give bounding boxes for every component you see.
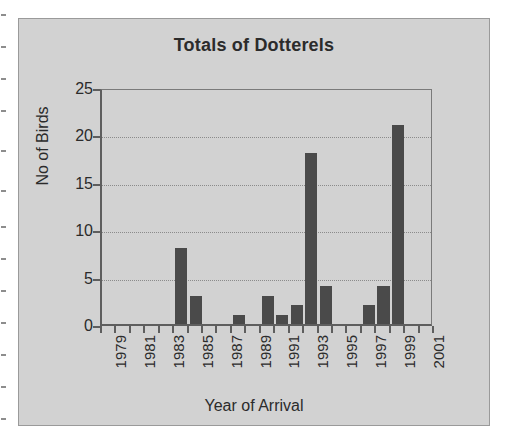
x-tick-mark [389, 326, 391, 333]
x-tick-mark [288, 326, 290, 333]
chart-title: Totals of Dotterels [19, 35, 489, 56]
x-tick-mark [403, 326, 405, 333]
x-tick-mark [418, 326, 420, 333]
x-tick-label: 1995 [343, 335, 360, 391]
x-tick-mark [172, 326, 174, 333]
x-tick-mark [345, 326, 347, 333]
x-axis-ticks [100, 326, 432, 334]
gridline-5 [102, 280, 431, 281]
plot-area [100, 89, 432, 326]
bar [363, 305, 375, 324]
x-tick-mark [302, 326, 304, 333]
x-tick-mark [187, 326, 189, 333]
y-tick-mark [93, 326, 100, 328]
x-tick-mark [259, 326, 261, 333]
bar [262, 296, 274, 324]
bar [233, 315, 245, 324]
x-tick-mark [201, 326, 203, 333]
page-edge-speckles [0, 0, 10, 444]
bar [276, 315, 288, 324]
bar [392, 125, 404, 324]
y-tick-mark [93, 89, 100, 91]
x-tick-label: 1985 [199, 335, 216, 391]
x-tick-mark [244, 326, 246, 333]
x-axis-title: Year of Arrival [19, 397, 489, 415]
y-tick-mark [93, 279, 100, 281]
x-tick-mark [230, 326, 232, 333]
y-axis-tick-labels: 0510152025 [43, 89, 93, 326]
y-tick-mark [93, 136, 100, 138]
x-tick-mark [374, 326, 376, 333]
bar [320, 286, 332, 324]
x-tick-mark [360, 326, 362, 333]
gridline-10 [102, 232, 431, 233]
x-tick-mark [129, 326, 131, 333]
x-tick-label: 1987 [228, 335, 245, 391]
x-tick-mark [143, 326, 145, 333]
x-tick-label: 1991 [285, 335, 302, 391]
x-tick-mark [158, 326, 160, 333]
x-tick-label: 1981 [141, 335, 158, 391]
bar [291, 305, 303, 324]
x-tick-label: 1983 [170, 335, 187, 391]
x-tick-label: 1999 [401, 335, 418, 391]
x-tick-mark [273, 326, 275, 333]
y-tick-label: 0 [53, 317, 93, 335]
y-tick-label: 10 [53, 222, 93, 240]
x-tick-label: 1997 [372, 335, 389, 391]
x-tick-mark [215, 326, 217, 333]
gridline-20 [102, 137, 431, 138]
x-tick-label: 1993 [314, 335, 331, 391]
y-tick-label: 25 [53, 80, 93, 98]
y-tick-label: 5 [53, 270, 93, 288]
x-tick-mark [432, 326, 434, 333]
bar [175, 248, 187, 324]
x-tick-mark [331, 326, 333, 333]
x-tick-label: 2001 [430, 335, 447, 391]
y-tick-label: 15 [53, 175, 93, 193]
bar [305, 153, 317, 324]
x-axis-tick-labels: 1979198119831985198719891991199319951997… [100, 335, 432, 395]
bar [190, 296, 202, 324]
x-tick-mark [100, 326, 102, 333]
chart-figure: Totals of Dotterels No of Birds 05101520… [18, 18, 490, 426]
x-tick-label: 1979 [112, 335, 129, 391]
gridline-15 [102, 185, 431, 186]
x-tick-mark [317, 326, 319, 333]
bar [377, 286, 389, 324]
x-tick-mark [114, 326, 116, 333]
y-tick-mark [93, 184, 100, 186]
y-tick-mark [93, 231, 100, 233]
x-tick-label: 1989 [257, 335, 274, 391]
y-tick-label: 20 [53, 127, 93, 145]
